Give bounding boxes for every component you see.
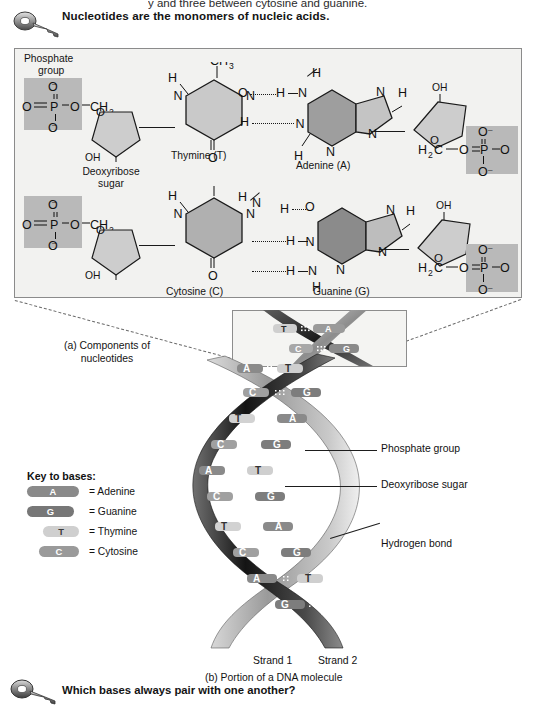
panel-b-caption: (b) Portion of a DNA molecule	[205, 672, 342, 683]
strand-1-label: Strand 1	[253, 655, 292, 666]
svg-text:–: –	[488, 283, 493, 292]
svg-text:N: N	[376, 85, 385, 99]
key-chip-cytosine: C	[39, 546, 79, 557]
key-icon	[12, 10, 64, 44]
cg-hydrogen-1: H	[280, 202, 289, 216]
callout-line-sugar	[285, 486, 377, 487]
key-chip-adenine: A	[27, 486, 79, 497]
cg-hydrogen-2: H	[286, 234, 295, 248]
key-label-guanine: = Guanine	[89, 506, 137, 517]
svg-text:A: A	[243, 363, 250, 374]
svg-text:N: N	[295, 117, 304, 131]
svg-text:N: N	[173, 207, 182, 221]
svg-text:P: P	[480, 261, 488, 275]
svg-text:T: T	[221, 521, 227, 532]
cg-hydrogen-3: H	[286, 264, 295, 278]
svg-text:A: A	[253, 573, 260, 584]
hydrogen-bond-ta-1	[250, 94, 276, 95]
key-chip-thymine: T	[43, 526, 79, 537]
hydrogen-bond-cg-3	[252, 271, 286, 272]
deoxyribose-sugar-label-1b: sugar	[73, 178, 149, 189]
svg-text:G: G	[267, 491, 275, 502]
thymine-structure: N N CH 3 H O	[158, 62, 268, 162]
key-icon	[8, 676, 60, 709]
svg-text:C: C	[434, 261, 443, 275]
svg-text:C: C	[213, 491, 220, 502]
panel-a-caption-line1: (a) Components of	[47, 339, 167, 352]
svg-text:G: G	[273, 439, 281, 450]
thymine-imino-hydrogen: H	[240, 115, 249, 129]
svg-text:A: A	[275, 521, 282, 532]
guanine-label: Guanine (G)	[313, 286, 370, 297]
svg-text:H: H	[168, 71, 177, 85]
svg-text:C: C	[434, 143, 443, 157]
svg-text:O: O	[459, 261, 469, 275]
phosphate-structure-4: H 2 C O P O – O – O	[418, 242, 522, 298]
svg-text:T: T	[305, 573, 311, 584]
svg-text:O: O	[500, 143, 510, 157]
svg-text:A: A	[289, 413, 296, 424]
svg-text:T: T	[255, 465, 261, 476]
svg-text:N: N	[336, 263, 345, 277]
hydroxyl-label-1: OH	[85, 152, 100, 163]
statement-text: Nucleotides are the monomers of nucleic …	[62, 9, 329, 22]
svg-text:G: G	[303, 387, 311, 398]
key-chip-guanine: G	[27, 506, 74, 517]
phosphate-group-label-top: Phosphate	[24, 53, 73, 64]
phosphate-structure-2: H 2 C O P O – O – O	[418, 124, 522, 180]
cytosine-label: Cytosine (C)	[166, 286, 223, 297]
hydrogen-bond-cg-2	[252, 241, 286, 242]
svg-text:P: P	[480, 143, 488, 157]
hydroxyl-label-4: OH	[436, 200, 451, 211]
svg-text:T: T	[235, 413, 241, 424]
adenine-label: Adenine (A)	[296, 160, 350, 171]
svg-text:–: –	[488, 165, 493, 174]
svg-text:O: O	[96, 224, 105, 236]
svg-text:C: C	[239, 547, 246, 558]
svg-text:T: T	[281, 324, 287, 334]
svg-text:N: N	[173, 89, 182, 103]
callout-dash-right	[397, 299, 521, 345]
svg-text:O: O	[478, 283, 488, 297]
svg-text:O: O	[459, 143, 469, 157]
adenine-amino-hydrogen-1: H	[276, 86, 285, 100]
svg-text:O: O	[500, 261, 510, 275]
svg-text:CH: CH	[210, 62, 228, 68]
deoxyribose-sugar-label-1: Deoxyribose	[73, 166, 149, 177]
svg-text:A: A	[205, 465, 212, 476]
svg-text:P: P	[50, 218, 58, 232]
hydroxyl-label-3: OH	[85, 270, 100, 281]
phosphate-group-label-top2: group	[38, 65, 64, 76]
thymine-carbonyl-oxygen: O	[238, 86, 248, 100]
thymine-label: Thymine (T)	[171, 150, 227, 161]
svg-text:O: O	[478, 243, 488, 257]
svg-text:N: N	[378, 245, 387, 259]
svg-text:T: T	[285, 363, 291, 374]
svg-text:H: H	[168, 189, 177, 203]
svg-text:H: H	[418, 261, 427, 275]
svg-text:–: –	[52, 79, 57, 88]
strand-2-label: Strand 2	[318, 655, 357, 666]
svg-text:2: 2	[428, 150, 433, 160]
svg-text:–: –	[52, 120, 57, 129]
dna-double-helix: AT CG TA CG AT CG TA CG AT G	[185, 352, 375, 657]
svg-text:N: N	[305, 235, 314, 249]
svg-text:–: –	[52, 238, 57, 247]
cytosine-amino-hydrogen: H	[238, 190, 247, 204]
svg-text:2: 2	[428, 268, 433, 278]
svg-text:–: –	[488, 125, 493, 134]
svg-text:O: O	[22, 100, 32, 114]
svg-text:O: O	[208, 269, 218, 282]
svg-text:O: O	[478, 165, 488, 179]
svg-text:A: A	[325, 324, 332, 334]
key-to-bases-title: Key to bases:	[27, 470, 96, 482]
svg-text:H: H	[418, 143, 427, 157]
clipped-header-text: y and three between cytosine and guanine…	[148, 0, 537, 9]
svg-text:3: 3	[229, 62, 234, 71]
svg-text:–: –	[52, 197, 57, 206]
key-label-adenine: = Adenine	[89, 486, 135, 497]
question-text: Which bases always pair with one another…	[62, 684, 296, 696]
svg-text:C: C	[217, 439, 224, 450]
callout-line-phosphate	[305, 450, 377, 451]
key-label-cytosine: = Cytosine	[89, 546, 138, 557]
